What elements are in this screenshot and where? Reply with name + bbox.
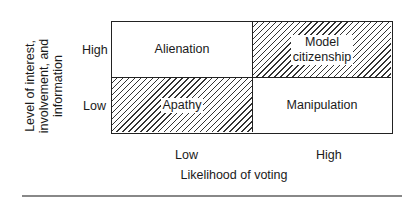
cell-label-line-2: citizenship [293, 50, 351, 64]
cell-alienation: Alienation [112, 22, 253, 78]
y-tick-high: High [82, 43, 108, 57]
y-axis-label-line-3: information [51, 39, 65, 134]
y-axis-label: Level of interest, involvement, and info… [4, 36, 84, 136]
cell-apathy: Apathy [112, 78, 253, 132]
cell-label: Alienation [155, 42, 210, 57]
x-tick-high: High [316, 148, 342, 162]
y-axis-label-line-1: Level of interest, [23, 39, 37, 134]
cell-label: Modelcitizenship [291, 35, 353, 65]
cell-model-citizenship: Modelcitizenship [253, 22, 391, 78]
y-axis-label-line-2: involvement, and [37, 39, 51, 134]
cell-label-line-1: Model [305, 35, 339, 49]
divider-rule [22, 195, 402, 197]
cell-label: Apathy [161, 98, 204, 113]
x-tick-low: Low [175, 148, 198, 162]
matrix-grid: Alienation Modelcitizenship Apathy Manip… [111, 21, 393, 134]
cell-label: Manipulation [287, 98, 358, 113]
x-axis-label: Likelihood of voting [0, 168, 418, 182]
y-tick-low: Low [83, 99, 106, 113]
x-axis-label-text: Likelihood of voting [180, 168, 287, 182]
cell-manipulation: Manipulation [253, 78, 391, 132]
